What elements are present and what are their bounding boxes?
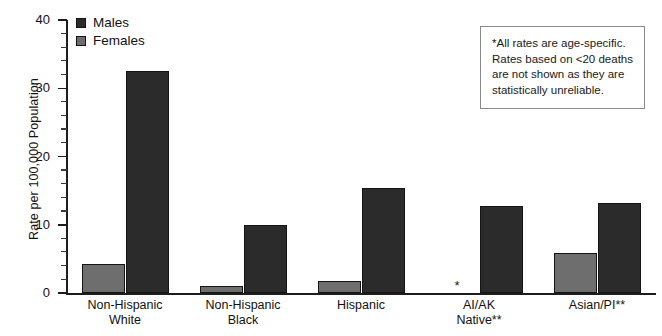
- x-axis-category-label: Non-HispanicBlack: [184, 298, 302, 328]
- bar-male: [480, 206, 523, 293]
- legend-swatch-males-icon: [76, 18, 86, 28]
- x-axis-category-label-line: Hispanic: [302, 298, 420, 313]
- bar-male: [362, 188, 405, 293]
- bar-female: [82, 264, 125, 293]
- x-axis-line: [66, 293, 656, 295]
- y-axis-tick-label: 0: [10, 285, 50, 300]
- y-axis-tick-label: 30: [10, 80, 50, 95]
- x-axis-category-label-line: AI/AK: [420, 298, 538, 313]
- x-axis-category-label-line: Non-Hispanic: [184, 298, 302, 313]
- footnote-line: statistically unreliable.: [492, 83, 634, 99]
- x-axis-category-label: Non-HispanicWhite: [66, 298, 184, 328]
- y-axis-tick-label: 20: [10, 149, 50, 164]
- bar-female: [200, 286, 243, 293]
- x-axis-category-label: Hispanic: [302, 298, 420, 313]
- footnote-box: *All rates are age-specific. Rates based…: [480, 26, 645, 109]
- chart-legend: Males Females: [76, 14, 145, 50]
- legend-label-males: Males: [93, 15, 129, 30]
- legend-label-females: Females: [93, 33, 145, 48]
- x-axis-category-label: Asian/PI**: [538, 298, 656, 313]
- x-axis-category-label-line: Native**: [420, 313, 538, 328]
- legend-item-females: Females: [76, 32, 145, 49]
- footnote-line: *All rates are age-specific.: [492, 36, 634, 52]
- x-axis-category-label-line: White: [66, 313, 184, 328]
- bar-female: [554, 253, 597, 293]
- legend-swatch-females-icon: [76, 36, 86, 46]
- footnote-line: are not shown as they are: [492, 67, 634, 83]
- footnote-line: Rates based on <20 deaths: [492, 52, 634, 68]
- x-axis-category-label: AI/AKNative**: [420, 298, 538, 328]
- bar-chart: Rate per 100,000 Population 010203040 * …: [0, 0, 662, 336]
- bar-male: [126, 71, 169, 293]
- bar-male: [598, 203, 641, 293]
- x-axis-category-label-line: Non-Hispanic: [66, 298, 184, 313]
- y-axis-tick-label: 10: [10, 217, 50, 232]
- y-axis-tick-label: 40: [10, 12, 50, 27]
- legend-item-males: Males: [76, 14, 145, 31]
- x-axis-category-label-line: Black: [184, 313, 302, 328]
- suppressed-data-marker: *: [436, 281, 479, 291]
- bar-female: [318, 281, 361, 293]
- x-axis-category-label-line: Asian/PI**: [538, 298, 656, 313]
- bar-male: [244, 225, 287, 293]
